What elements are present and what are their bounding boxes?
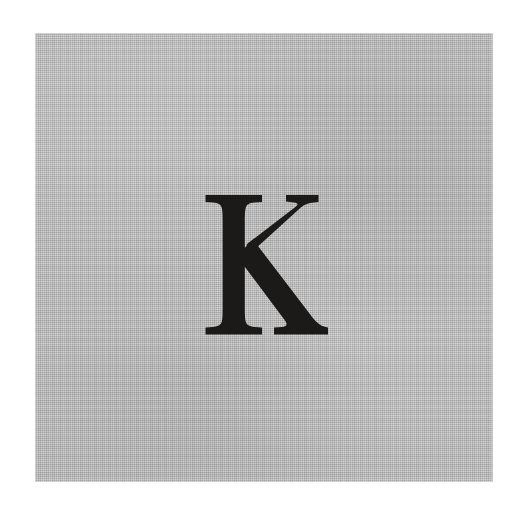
gray-textured-panel: K — [35, 33, 493, 482]
specimen-canvas: K — [0, 0, 531, 510]
letter-k-outline — [206, 195, 329, 335]
capital-letter-k-glyph: K — [203, 194, 330, 335]
capital-letter-k-icon — [203, 194, 330, 335]
